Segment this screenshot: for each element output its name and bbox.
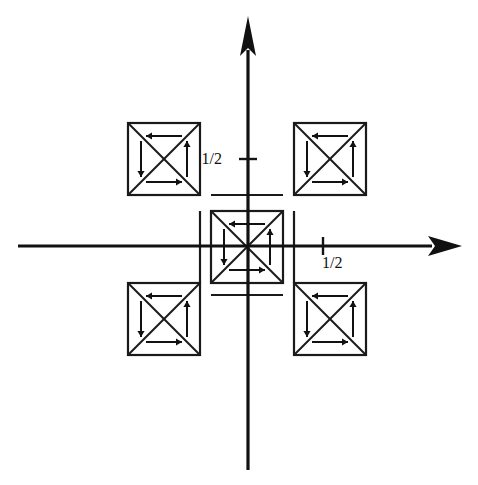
diagram-canvas: 1/21/2 — [0, 0, 478, 485]
tick-y-0_5-label: 1/2 — [202, 150, 222, 167]
tick-x-0_5-label: 1/2 — [322, 254, 342, 271]
diagram-background — [0, 0, 478, 485]
vector-field-diagram: 1/21/2 — [0, 0, 478, 485]
